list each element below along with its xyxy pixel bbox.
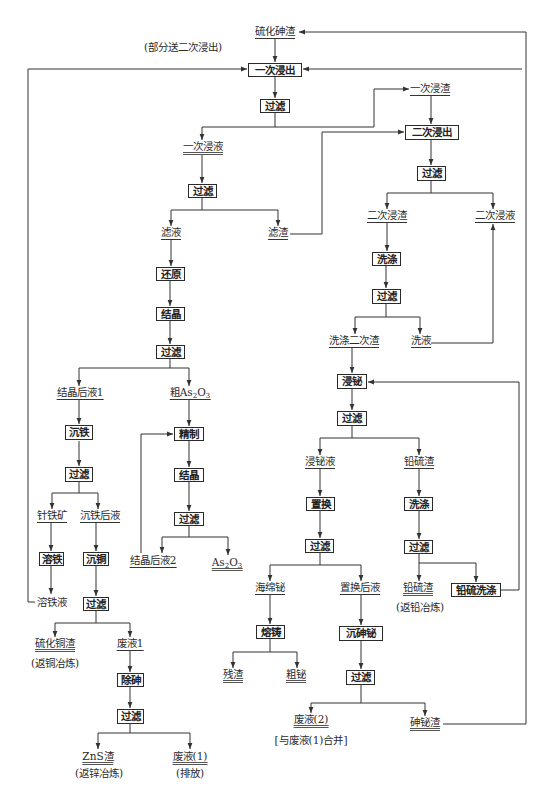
note-discharge: (排放): [176, 767, 204, 779]
step-fe-dissolve: 溶铁: [39, 552, 64, 566]
flowsheet-canvas: 一次浸出 过滤 过滤 二次浸出 过滤 洗涤 过滤 还原 结晶 过滤 沉铁 精制 …: [0, 0, 549, 802]
material-leach1-residue: 一次浸渣: [410, 82, 450, 96]
material-zns-residue: ZnS渣: [82, 750, 113, 765]
step-filter-10: 过滤: [337, 411, 367, 426]
material-sponge-bi: 海绵铋: [255, 581, 285, 595]
material-after-cementation-liquor: 置换后液: [340, 581, 380, 595]
material-waste-liquor-1: 废液1: [117, 637, 144, 651]
step-as-removal: 除砷: [117, 673, 144, 687]
note-return-cu: (返铜冶炼): [31, 657, 79, 669]
step-pbs-wash: 铅硫洗涤: [451, 583, 501, 597]
step-cementation: 置换: [306, 497, 335, 511]
material-bi-leach-liquor: 浸铋液: [305, 455, 335, 469]
step-filter-13: 过滤: [346, 670, 375, 685]
step-crystallize-1: 结晶: [156, 307, 185, 321]
material-filter-residue: 滤渣: [268, 226, 288, 240]
step-as-bi-precip: 沉砷铋: [339, 626, 383, 641]
step-cu-precip: 沉铜: [83, 552, 109, 566]
step-crystallize-2: 结晶: [174, 468, 204, 482]
step-filter-2: 过滤: [188, 184, 217, 198]
material-pbs-residue-final: 铅硫渣: [403, 581, 433, 596]
step-reduce: 还原: [156, 267, 185, 281]
material-crude-as2o3: 粗As2O3: [170, 386, 211, 400]
material-as-sulfide-residue: 硫化砷渣: [255, 25, 295, 39]
material-wash-liquor: 洗液: [411, 334, 431, 348]
material-leach2-liquor: 二次浸液: [475, 209, 515, 223]
material-residue: 残渣: [223, 668, 243, 683]
step-leach2: 二次浸出: [405, 125, 459, 140]
step-filter-1: 过滤: [260, 99, 290, 113]
note-merge-waste1: [与废液(1)合并]: [274, 734, 347, 746]
note-partial-to-leach2: (部分送二次浸出): [144, 41, 222, 53]
material-washed-leach2-residue: 洗涤二次渣: [329, 334, 379, 348]
material-leach1-liquor: 一次浸液: [183, 140, 223, 155]
step-filter-5: 过滤: [156, 345, 185, 359]
step-filter-3: 过滤: [417, 166, 446, 181]
material-mother-liquor-2: 结晶后液2: [130, 554, 177, 568]
step-fe-precip: 沉铁: [65, 425, 93, 440]
material-cus-residue: 硫化铜渣: [35, 637, 75, 652]
step-filter-4: 过滤: [372, 289, 401, 304]
step-bi-leach: 浸铋: [337, 374, 367, 389]
material-goethite: 针铁矿: [37, 509, 67, 523]
step-wash-1: 洗涤: [372, 252, 401, 266]
material-after-fe-liquor: 沉铁后液: [80, 509, 120, 523]
note-return-pb: (返铅冶炼): [396, 601, 444, 613]
material-filtrate: 滤液: [161, 226, 181, 240]
step-filter-7: 过滤: [174, 512, 204, 526]
step-filter-11: 过滤: [305, 539, 334, 553]
material-waste-2: 废液(2): [294, 713, 329, 728]
material-as-bi-residue: 砷铋渣: [410, 716, 440, 731]
step-filter-12: 过滤: [404, 540, 433, 554]
step-refine: 精制: [174, 427, 204, 441]
material-leach2-residue: 二次浸渣: [367, 209, 407, 223]
note-return-zn: (返锌冶炼): [75, 767, 123, 779]
step-filter-8: 过滤: [83, 597, 109, 611]
step-filter-9: 过滤: [117, 709, 144, 724]
step-melt-cast: 熔铸: [256, 625, 285, 639]
material-waste-1: 废液(1): [173, 750, 208, 765]
step-filter-6: 过滤: [65, 467, 93, 482]
material-as2o3-product: As2O3: [212, 556, 243, 571]
step-leach1: 一次浸出: [248, 63, 302, 77]
step-wash-2: 洗涤: [404, 497, 433, 511]
material-mother-liquor-1: 结晶后液1: [57, 386, 104, 400]
material-fe-dissolve-liquor: 溶铁液: [37, 596, 67, 608]
material-crude-bi: 粗铋: [286, 668, 306, 683]
material-pbs-residue: 铅硫渣: [404, 455, 434, 469]
flow-connectors: [0, 0, 549, 802]
